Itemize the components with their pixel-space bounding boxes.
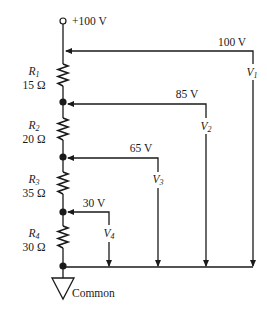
r3-value: 35 Ω: [23, 187, 46, 199]
circuit-diagram: +100 V Common R1 15 Ω R2 20 Ω R3 35 Ω R4…: [0, 0, 267, 314]
r3-name: R3: [27, 173, 39, 187]
r4-name: R4: [27, 227, 39, 241]
resistor-r4: [58, 226, 68, 248]
r1-value: 15 Ω: [23, 79, 46, 91]
r2-value: 20 Ω: [23, 133, 46, 145]
v3-voltage: 65 V: [130, 142, 153, 154]
node-30v: [59, 208, 66, 215]
resistor-r3: [58, 172, 68, 194]
v2-top-lead: [68, 104, 206, 118]
v2-meter: V2: [200, 120, 211, 134]
r1-name: R1: [27, 65, 39, 79]
v1-voltage: 100 V: [218, 36, 247, 48]
node-common: [59, 262, 66, 269]
v2-voltage: 85 V: [176, 88, 199, 100]
v4-top-lead: [68, 212, 109, 225]
node-85v: [59, 98, 66, 105]
v1-top-lead: [66, 51, 253, 64]
v3-meter: V3: [152, 173, 163, 187]
v4-voltage: 30 V: [83, 197, 106, 209]
supply-label: +100 V: [72, 15, 107, 27]
supply-terminal: [60, 18, 66, 24]
v4-meter: V4: [103, 227, 114, 241]
v1-meter: V1: [246, 66, 257, 80]
node-65v: [59, 153, 66, 160]
ground-icon: [52, 278, 74, 299]
ground-label: Common: [72, 287, 115, 299]
v3-top-lead: [68, 158, 158, 172]
r2-name: R2: [27, 119, 39, 133]
resistor-r1: [58, 64, 68, 86]
resistor-r2: [58, 118, 68, 140]
r4-value: 30 Ω: [23, 241, 46, 253]
